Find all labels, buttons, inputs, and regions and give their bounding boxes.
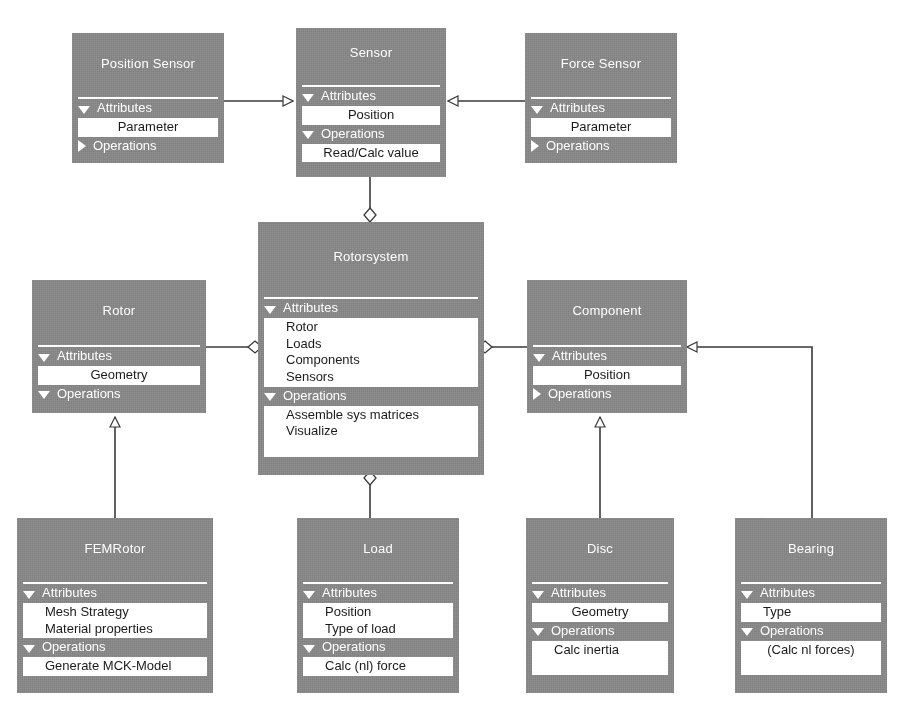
attribute-item[interactable]: Mesh Strategy — [23, 604, 207, 621]
class-box-rotor[interactable]: Rotor Attributes Geometry Operations — [32, 280, 206, 413]
relation-rotorsystem-to-sensor — [364, 177, 376, 222]
attribute-item[interactable]: Parameter — [531, 119, 671, 136]
operations-section-header[interactable]: Operations — [17, 638, 213, 657]
operation-item[interactable]: Calc inertia — [532, 642, 668, 659]
attribute-item[interactable]: Sensors — [264, 369, 478, 386]
operation-item[interactable]: Assemble sys matrices — [264, 407, 478, 424]
class-box-force-sensor[interactable]: Force Sensor Attributes Parameter Operat… — [525, 33, 677, 163]
chevron-down-icon[interactable] — [532, 591, 544, 599]
attributes-list: Mesh Strategy Material properties — [23, 603, 207, 638]
attribute-item[interactable]: Position — [303, 604, 453, 621]
attributes-label: Attributes — [57, 349, 112, 364]
operations-list: Generate MCK-Model — [23, 657, 207, 676]
attributes-label: Attributes — [42, 586, 97, 601]
attribute-item[interactable]: Position — [302, 107, 440, 124]
operation-item[interactable]: Read/Calc value — [302, 145, 440, 162]
operations-list: Read/Calc value — [302, 144, 440, 163]
attributes-section-header[interactable]: Attributes — [297, 584, 459, 603]
operations-section-header[interactable]: Operations — [527, 385, 687, 404]
attribute-item[interactable]: Loads — [264, 336, 478, 353]
chevron-down-icon[interactable] — [264, 393, 276, 401]
attributes-section-header[interactable]: Attributes — [527, 347, 687, 366]
chevron-down-icon[interactable] — [38, 354, 50, 362]
attributes-section-header[interactable]: Attributes — [258, 299, 484, 318]
attribute-item[interactable]: Material properties — [23, 621, 207, 638]
operation-item[interactable]: Visualize — [264, 423, 478, 440]
chevron-down-icon[interactable] — [302, 94, 314, 102]
attributes-section-header[interactable]: Attributes — [17, 584, 213, 603]
attributes-section-header[interactable]: Attributes — [72, 99, 224, 118]
class-box-position-sensor[interactable]: Position Sensor Attributes Parameter Ope… — [72, 33, 224, 163]
operations-section-header[interactable]: Operations — [297, 638, 459, 657]
attribute-item[interactable]: Type of load — [303, 621, 453, 638]
operations-label: Operations — [546, 139, 610, 154]
class-title: Position Sensor — [72, 33, 224, 71]
operations-label: Operations — [57, 387, 121, 402]
chevron-down-icon[interactable] — [303, 591, 315, 599]
chevron-down-icon[interactable] — [741, 628, 753, 636]
chevron-down-icon[interactable] — [78, 106, 90, 114]
operation-item[interactable]: Calc (nl) force — [303, 658, 453, 675]
operations-section-header[interactable]: Operations — [32, 385, 206, 404]
attributes-label: Attributes — [322, 586, 377, 601]
operations-section-header[interactable]: Operations — [735, 622, 887, 641]
chevron-right-icon[interactable] — [531, 140, 539, 152]
operation-item[interactable]: (Calc nl forces) — [741, 642, 881, 659]
class-box-rotorsystem[interactable]: Rotorsystem Attributes Rotor Loads Compo… — [258, 222, 484, 475]
chevron-right-icon[interactable] — [78, 140, 86, 152]
class-box-femrotor[interactable]: FEMRotor Attributes Mesh Strategy Materi… — [17, 518, 213, 693]
attributes-section-header[interactable]: Attributes — [526, 584, 674, 603]
chevron-down-icon[interactable] — [264, 306, 276, 314]
operations-section-header[interactable]: Operations — [526, 622, 674, 641]
attribute-item[interactable]: Geometry — [532, 604, 668, 621]
chevron-right-icon[interactable] — [533, 388, 541, 400]
uml-class-diagram-canvas: Position Sensor Attributes Parameter Ope… — [0, 0, 904, 713]
class-title: Rotor — [32, 280, 206, 318]
attribute-item[interactable]: Position — [533, 367, 681, 384]
attributes-section-header[interactable]: Attributes — [32, 347, 206, 366]
chevron-down-icon[interactable] — [303, 645, 315, 653]
attribute-item[interactable]: Components — [264, 352, 478, 369]
chevron-down-icon[interactable] — [741, 591, 753, 599]
attributes-list: Geometry — [38, 366, 200, 385]
attributes-section-header[interactable]: Attributes — [296, 87, 446, 106]
class-title: Force Sensor — [525, 33, 677, 71]
operations-section-header[interactable]: Operations — [296, 125, 446, 144]
chevron-down-icon[interactable] — [531, 106, 543, 114]
chevron-down-icon[interactable] — [38, 391, 50, 399]
attribute-item[interactable]: Geometry — [38, 367, 200, 384]
attribute-item[interactable]: Parameter — [78, 119, 218, 136]
attribute-item[interactable]: Type — [741, 604, 881, 621]
class-title: Bearing — [735, 518, 887, 556]
operations-list: Assemble sys matrices Visualize — [264, 406, 478, 457]
operations-label: Operations — [321, 127, 385, 142]
chevron-down-icon[interactable] — [23, 591, 35, 599]
operations-label: Operations — [548, 387, 612, 402]
class-box-disc[interactable]: Disc Attributes Geometry Operations Calc… — [526, 518, 674, 693]
attributes-section-header[interactable]: Attributes — [735, 584, 887, 603]
class-box-load[interactable]: Load Attributes Position Type of load Op… — [297, 518, 459, 693]
operations-section-header[interactable]: Operations — [72, 137, 224, 156]
relation-rotorsystem-to-load — [364, 471, 376, 518]
operations-list: (Calc nl forces) — [741, 641, 881, 676]
operations-section-header[interactable]: Operations — [525, 137, 677, 156]
attribute-item[interactable]: Rotor — [264, 319, 478, 336]
class-box-component[interactable]: Component Attributes Position Operations — [527, 280, 687, 413]
attributes-list: Parameter — [78, 118, 218, 137]
class-box-bearing[interactable]: Bearing Attributes Type Operations (Calc… — [735, 518, 887, 693]
chevron-down-icon[interactable] — [302, 131, 314, 139]
chevron-down-icon[interactable] — [532, 628, 544, 636]
attributes-section-header[interactable]: Attributes — [525, 99, 677, 118]
chevron-down-icon[interactable] — [23, 645, 35, 653]
class-title: Disc — [526, 518, 674, 556]
attributes-list: Position — [533, 366, 681, 385]
class-box-sensor[interactable]: Sensor Attributes Position Operations Re… — [296, 28, 446, 177]
attributes-list: Position — [302, 106, 440, 125]
operations-label: Operations — [93, 139, 157, 154]
operations-label: Operations — [760, 624, 824, 639]
chevron-down-icon[interactable] — [533, 354, 545, 362]
class-title: FEMRotor — [17, 518, 213, 556]
operations-section-header[interactable]: Operations — [258, 387, 484, 406]
operation-item[interactable]: Generate MCK-Model — [23, 658, 207, 675]
operations-list: Calc (nl) force — [303, 657, 453, 676]
